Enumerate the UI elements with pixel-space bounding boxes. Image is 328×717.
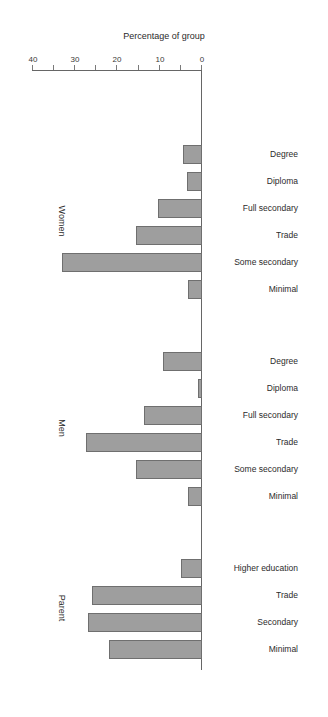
x-axis-tick <box>201 65 202 70</box>
x-axis-tick <box>95 65 96 70</box>
plot-area: 010203040 Percentage of group MinimalSec… <box>0 0 328 717</box>
category-label: Diploma <box>208 176 298 187</box>
bar <box>188 280 202 299</box>
x-axis-tick <box>32 65 33 70</box>
category-label: Higher education <box>208 563 298 574</box>
x-axis-tick <box>159 65 160 70</box>
category-label: Trade <box>208 437 298 448</box>
category-label: Degree <box>208 149 298 160</box>
x-axis-tick-label: 20 <box>104 55 130 64</box>
category-label: Full secondary <box>208 410 298 421</box>
category-label: Trade <box>208 230 298 241</box>
bar <box>86 433 202 452</box>
bar <box>188 487 202 506</box>
bar <box>88 613 202 632</box>
bar <box>109 640 202 659</box>
bar <box>183 145 202 164</box>
bar <box>158 199 202 218</box>
category-label: Minimal <box>208 491 298 502</box>
x-axis-tick-label: 10 <box>147 55 173 64</box>
x-axis-tick <box>53 65 54 70</box>
category-label: Full secondary <box>208 203 298 214</box>
bar <box>92 586 202 605</box>
category-label: Degree <box>208 356 298 367</box>
bar <box>62 253 202 272</box>
bar <box>144 406 202 425</box>
category-label: Secondary <box>208 617 298 628</box>
bar <box>136 460 202 479</box>
x-axis-tick-label: 0 <box>189 55 215 64</box>
x-axis-tick <box>180 65 181 70</box>
group-label-parent: Parent <box>57 578 67 638</box>
bar-chart-figure: 010203040 Percentage of group MinimalSec… <box>0 0 328 717</box>
x-axis-tick <box>116 65 117 70</box>
category-label: Some secondary <box>208 464 298 475</box>
category-label: Trade <box>208 590 298 601</box>
x-axis-tick-label: 40 <box>20 55 46 64</box>
x-axis-title: Percentage of group <box>0 31 328 41</box>
x-axis-line <box>32 70 202 71</box>
x-axis-tick-label: 30 <box>62 55 88 64</box>
group-label-women: Women <box>57 191 67 251</box>
bar <box>136 226 202 245</box>
category-label: Minimal <box>208 644 298 655</box>
x-axis-tick <box>74 65 75 70</box>
bar <box>163 352 202 371</box>
x-axis-tick <box>138 65 139 70</box>
category-label: Diploma <box>208 383 298 394</box>
category-label: Minimal <box>208 284 298 295</box>
category-label: Some secondary <box>208 257 298 268</box>
bar <box>181 559 202 578</box>
bar <box>187 172 202 191</box>
bar <box>198 379 202 398</box>
group-label-men: Men <box>57 398 67 458</box>
